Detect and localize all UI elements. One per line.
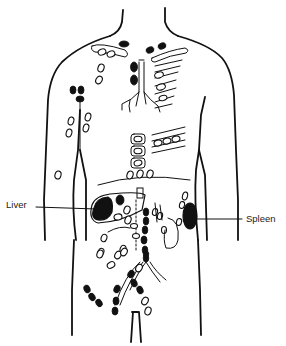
axillary-nodes <box>54 86 92 180</box>
spleen <box>176 191 197 229</box>
liver-label: Liver <box>6 200 27 210</box>
torso-diagram <box>0 0 286 346</box>
spleen-label: Spleen <box>246 214 276 224</box>
iliac-nodes <box>83 247 166 316</box>
trachea-bronchi <box>122 60 160 112</box>
